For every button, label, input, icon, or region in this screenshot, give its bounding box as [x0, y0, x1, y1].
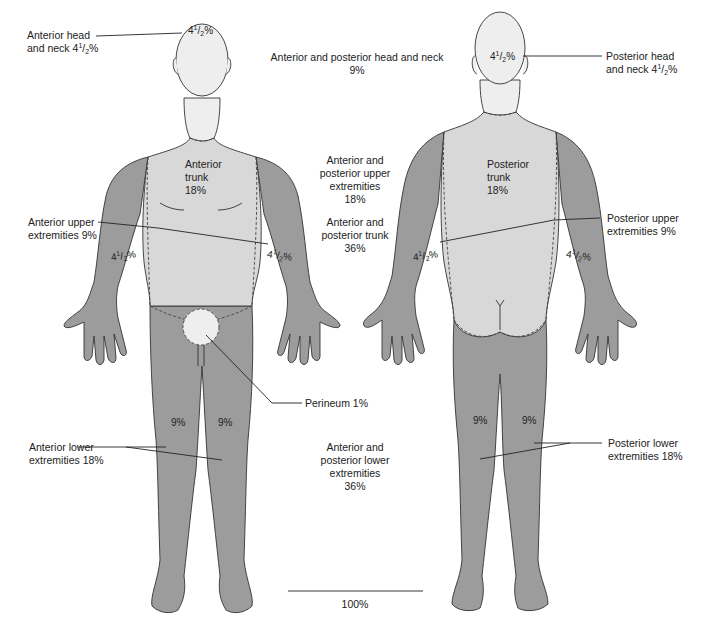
callout-anterior-lower-extremities: Anterior lower extremities 18% [29, 441, 104, 467]
posterior-head-pct: 41/2% [490, 51, 515, 64]
grand-total: 100% [305, 598, 405, 611]
posterior-head [475, 12, 525, 84]
callout-posterior-upper-extremities: Posterior upper extremities 9% [607, 212, 679, 238]
posterior-figure [363, 12, 636, 611]
anterior-left-leg-pct: 9% [171, 417, 185, 429]
posterior-left-leg-pct: 9% [473, 415, 487, 427]
callout-anterior-upper-extremities: Anterior upper extremities 9% [28, 216, 97, 242]
anterior-head-pct: 41/2% [188, 25, 213, 38]
anterior-figure [64, 24, 340, 613]
total-lower-extremities: Anterior and posterior lower extremities… [305, 441, 405, 493]
rule-of-nines-diagram: .o { stroke:#333; stroke-width:0.9; } .d… [0, 0, 703, 630]
anterior-perineum [183, 309, 219, 345]
callout-posterior-lower-extremities: Posterior lower extremities 18% [608, 437, 683, 463]
total-trunk: Anterior and posterior trunk 36% [305, 216, 405, 255]
callout-posterior-head-neck: Posterior head and neck 41/2% [606, 50, 677, 77]
total-head-neck: Anterior and posterior head and neck 9% [268, 51, 446, 77]
anterior-legs [150, 306, 253, 613]
posterior-trunk [441, 112, 559, 337]
anterior-trunk-label: Anterior trunk 18% [185, 158, 222, 197]
anterior-right-leg-pct: 9% [218, 417, 232, 429]
posterior-neck [480, 80, 520, 115]
total-upper-extremities: Anterior and posterior upper extremities… [305, 154, 405, 206]
callout-anterior-head-neck: Anterior head and neck 41/2% [27, 29, 98, 56]
posterior-trunk-label: Posterior trunk 18% [487, 158, 529, 197]
anterior-neck [184, 98, 220, 141]
posterior-right-leg-pct: 9% [522, 415, 536, 427]
callout-perineum: Perineum 1% [305, 397, 368, 410]
posterior-legs [452, 320, 548, 611]
